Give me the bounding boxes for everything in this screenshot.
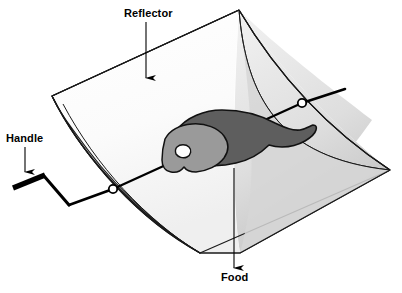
reflector-label: Reflector [124,7,173,19]
near-bearing-icon [109,185,117,193]
food-bone-hole [175,145,190,158]
diagram-canvas: Reflector Handle Food [0,0,402,293]
crank-handle [13,175,69,205]
reflector-cooker-diagram [0,0,402,293]
food-label: Food [221,271,248,283]
spit-rod-left-segment [69,189,113,205]
crank-arm [44,176,69,205]
handle-grip [13,175,45,188]
far-bearing-icon [298,99,306,107]
handle-label: Handle [6,132,43,144]
